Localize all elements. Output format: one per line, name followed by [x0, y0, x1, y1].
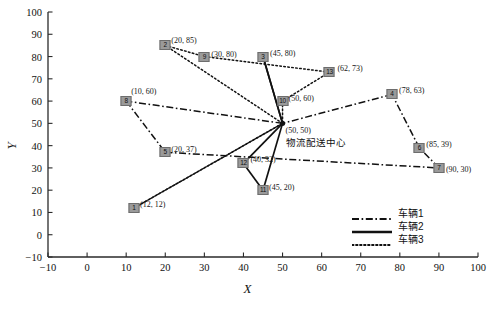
customer-node-6: 6	[414, 143, 425, 153]
customer-coord-label-10: (50, 60)	[289, 94, 314, 103]
x-tick-label: 20	[160, 262, 171, 273]
customer-node-4: 4	[387, 89, 398, 99]
y-axis-title: Y	[4, 142, 20, 149]
x-tick-label: 40	[238, 262, 249, 273]
customer-node-13: 13	[324, 67, 335, 77]
customer-node-9: 9	[199, 52, 210, 62]
customer-node-2: 2	[160, 40, 171, 50]
route-segment-车辆3	[134, 123, 283, 208]
customer-node-12: 12	[238, 158, 249, 168]
x-tick-label: 70	[355, 262, 366, 273]
depot-marker	[280, 121, 285, 126]
x-tick-label: 30	[199, 262, 210, 273]
customer-node-7: 7	[433, 163, 444, 173]
y-tick-label: 10	[14, 207, 42, 218]
legend-item-3[interactable]: 车辆3	[352, 232, 456, 245]
legend-label-3: 车辆3	[398, 231, 424, 246]
x-tick-label: −10	[40, 262, 56, 273]
customer-coord-label-11: (45, 20)	[269, 183, 294, 192]
x-tick-label: 50	[277, 262, 288, 273]
legend: 车辆1车辆2车辆3	[352, 206, 456, 250]
customer-coord-label-12: (40, 32)	[250, 155, 275, 164]
customer-coord-label-6: (85, 39)	[426, 140, 451, 149]
y-tick-label: 20	[14, 185, 42, 196]
legend-swatch-dashdot	[352, 209, 392, 217]
customer-coord-label-7: (90, 30)	[446, 165, 471, 174]
customer-coord-label-5: (20, 37)	[171, 145, 196, 154]
x-tick-label: 10	[121, 262, 132, 273]
customer-coord-label-3: (45, 80)	[270, 49, 295, 58]
x-tick-label: 80	[395, 262, 406, 273]
route-segment-车辆1	[126, 101, 282, 123]
y-tick-label: 30	[14, 162, 42, 173]
customer-coord-label-2: (20, 85)	[171, 36, 196, 45]
y-tick-label: 70	[14, 73, 42, 84]
y-tick-label: 60	[14, 96, 42, 107]
customer-node-1: 1	[129, 203, 140, 213]
x-axis-title: X	[0, 281, 495, 297]
x-tick-label: 60	[316, 262, 327, 273]
x-tick-label: 100	[470, 262, 486, 273]
customer-coord-label-9: (30, 80)	[211, 50, 236, 59]
customer-node-5: 5	[160, 147, 171, 157]
y-tick-label: 80	[14, 51, 42, 62]
y-tick-label: 100	[14, 7, 42, 18]
x-tick-label: 0	[84, 262, 89, 273]
depot-name-label: 物流配送中心	[286, 135, 346, 149]
y-tick-label: 90	[14, 29, 42, 40]
legend-swatch-solid	[352, 222, 392, 230]
customer-node-10: 10	[277, 96, 288, 106]
y-tick-label: −10	[14, 252, 42, 263]
depot-coord-label: (50, 50)	[286, 126, 311, 135]
legend-swatch-dotted	[352, 235, 392, 243]
customer-coord-label-4: (78, 63)	[399, 86, 424, 95]
route-segment-车辆1	[165, 152, 439, 168]
route-segment-车辆1	[126, 101, 165, 152]
x-tick-label: 90	[434, 262, 445, 273]
customer-node-8: 8	[121, 96, 132, 106]
customer-node-3: 3	[258, 52, 269, 62]
customer-coord-label-1: (12, 12)	[140, 200, 165, 209]
y-tick-label: 0	[14, 229, 42, 240]
route-segment-车辆1	[392, 94, 419, 147]
customer-coord-label-8: (10, 60)	[131, 87, 156, 96]
customer-coord-label-13: (62, 73)	[337, 64, 362, 73]
y-tick-label: 50	[14, 118, 42, 129]
customer-node-11: 11	[258, 185, 269, 195]
